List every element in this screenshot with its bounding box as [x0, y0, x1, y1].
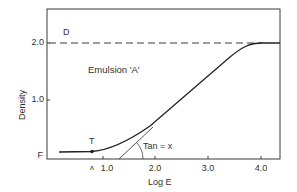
plot-frame — [47, 9, 280, 159]
threshold-label: T — [89, 136, 95, 146]
y-tick-label-2: 2.0 — [20, 37, 44, 47]
x-tick-label-1: 1.0 — [92, 163, 122, 173]
max-density-label: D — [63, 27, 70, 37]
x-tick-label-3: 3.0 — [193, 163, 223, 173]
tangent-label: Tan = x — [143, 141, 172, 151]
y-tick-label-f: F — [19, 150, 43, 160]
x-tick-label-4: 4.0 — [246, 163, 276, 173]
threshold-point — [90, 150, 94, 154]
x-axis-label: Log E — [148, 177, 172, 187]
emulsion-label: Emulsion 'A' — [88, 64, 140, 75]
y-axis-label: Density — [17, 90, 27, 120]
x-tick-label-2: 2.0 — [140, 163, 170, 173]
